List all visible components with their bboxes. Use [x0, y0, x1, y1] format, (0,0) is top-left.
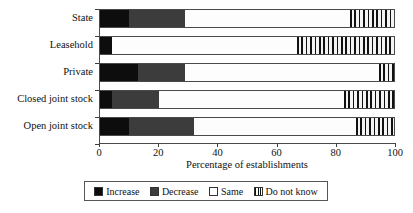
bar-segment-increase	[100, 10, 129, 27]
bar-segment-increase	[100, 118, 129, 135]
bar-segment-same	[185, 64, 379, 81]
legend-swatch-same-icon	[209, 187, 218, 196]
legend-item-decrease: Decrease	[150, 186, 199, 197]
bar-segment-increase	[100, 37, 112, 54]
bar-segment-same	[194, 118, 356, 135]
x-axis-tick-label: 40	[212, 147, 223, 159]
category-label-closed-joint-stock: Closed joint stock	[0, 93, 93, 104]
bar-segment-decrease	[129, 10, 185, 27]
x-axis-tick-label: 80	[331, 147, 342, 159]
table-row	[99, 117, 395, 136]
legend-swatch-increase-icon	[94, 187, 103, 196]
y-axis-tick	[95, 63, 99, 64]
x-axis-tick-label: 20	[153, 147, 164, 159]
bar-segment-do-not-know	[297, 37, 394, 54]
legend-item-increase: Increase	[94, 186, 139, 197]
legend-swatch-do-not-know-icon	[254, 187, 263, 196]
legend-label-same: Same	[221, 186, 243, 197]
plot-area	[99, 9, 395, 144]
bar-segment-do-not-know	[350, 10, 394, 27]
category-label-state: State	[0, 12, 93, 23]
y-axis-line	[99, 9, 100, 144]
y-axis-tick	[95, 36, 99, 37]
legend-label-do-not-know: Do not know	[266, 186, 318, 197]
y-axis-tick	[95, 117, 99, 118]
x-axis-tick-label: 60	[271, 147, 282, 159]
legend-item-same: Same	[209, 186, 243, 197]
stacked-bar-chart: State Leasehold Private Closed joint sto…	[0, 0, 413, 213]
legend-label-increase: Increase	[106, 186, 139, 197]
category-label-leasehold: Leasehold	[0, 39, 93, 50]
x-axis-tick-label: 100	[387, 147, 403, 159]
bar-segment-do-not-know	[356, 118, 394, 135]
bar-segment-decrease	[112, 91, 159, 108]
legend-label-decrease: Decrease	[162, 186, 199, 197]
category-axis-labels: State Leasehold Private Closed joint sto…	[0, 8, 93, 143]
legend-item-do-not-know: Do not know	[254, 186, 318, 197]
bar-segment-same	[185, 10, 350, 27]
bar-segment-do-not-know	[344, 91, 394, 108]
table-row	[99, 36, 395, 55]
chart-legend: Increase Decrease Same Do not know	[84, 181, 328, 201]
x-axis-tick-label: 0	[96, 147, 101, 159]
table-row	[99, 90, 395, 109]
table-row	[99, 9, 395, 28]
bar-segment-do-not-know	[379, 64, 394, 81]
y-axis-tick	[95, 90, 99, 91]
bar-segment-same	[159, 91, 344, 108]
x-axis-title: Percentage of establishments	[99, 159, 395, 171]
bar-segment-decrease	[138, 64, 185, 81]
table-row	[99, 63, 395, 82]
y-axis-tick	[95, 9, 99, 10]
category-label-private: Private	[0, 66, 93, 77]
bar-segment-decrease	[129, 118, 194, 135]
bar-segment-same	[112, 37, 297, 54]
category-label-open-joint-stock: Open joint stock	[0, 120, 93, 131]
bar-segment-increase	[100, 64, 138, 81]
legend-swatch-decrease-icon	[150, 187, 159, 196]
x-axis-line	[99, 143, 395, 144]
bar-segment-increase	[100, 91, 112, 108]
